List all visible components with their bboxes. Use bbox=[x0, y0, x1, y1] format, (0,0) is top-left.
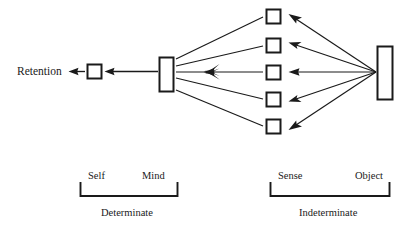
indeterminate-caption: Indeterminate bbox=[299, 207, 358, 218]
object-label: Object bbox=[355, 170, 383, 181]
fan-left-arrow-3 bbox=[176, 68, 263, 75]
fan-left-arrow-1 bbox=[176, 17, 263, 73]
fan-left-arrow-5 bbox=[176, 72, 263, 127]
retention-flow-diagram: Retention bbox=[0, 0, 412, 232]
retention-label: Retention bbox=[17, 65, 62, 77]
fan-right-arrow-5 bbox=[289, 72, 377, 130]
small-square-node bbox=[88, 65, 102, 79]
mind-label: Mind bbox=[142, 170, 166, 181]
arrow-square-to-retention bbox=[69, 68, 86, 75]
indeterminate-bracket bbox=[271, 182, 390, 196]
fan-right-arrow-4 bbox=[289, 72, 377, 102]
fan-right-arrow-2 bbox=[289, 42, 377, 72]
fan-right-arrow-3 bbox=[289, 68, 377, 75]
diagram-canvas: Retention bbox=[0, 0, 412, 232]
sense-square-1 bbox=[267, 10, 281, 24]
sense-square-3 bbox=[267, 66, 281, 80]
arrow-mindbar-to-square bbox=[105, 68, 159, 75]
determinate-caption: Determinate bbox=[101, 207, 153, 218]
sense-square-4 bbox=[267, 93, 281, 107]
sense-square-5 bbox=[267, 120, 281, 134]
sense-label: Sense bbox=[278, 170, 303, 181]
sense-square-2 bbox=[267, 39, 281, 53]
fan-right-arrow-1 bbox=[289, 14, 377, 72]
fan-left-arrow-2 bbox=[176, 46, 263, 74]
self-label: Self bbox=[88, 170, 105, 181]
left-tall-rectangle bbox=[160, 58, 174, 92]
determinate-bracket bbox=[81, 182, 178, 196]
right-tall-rectangle bbox=[378, 47, 393, 100]
